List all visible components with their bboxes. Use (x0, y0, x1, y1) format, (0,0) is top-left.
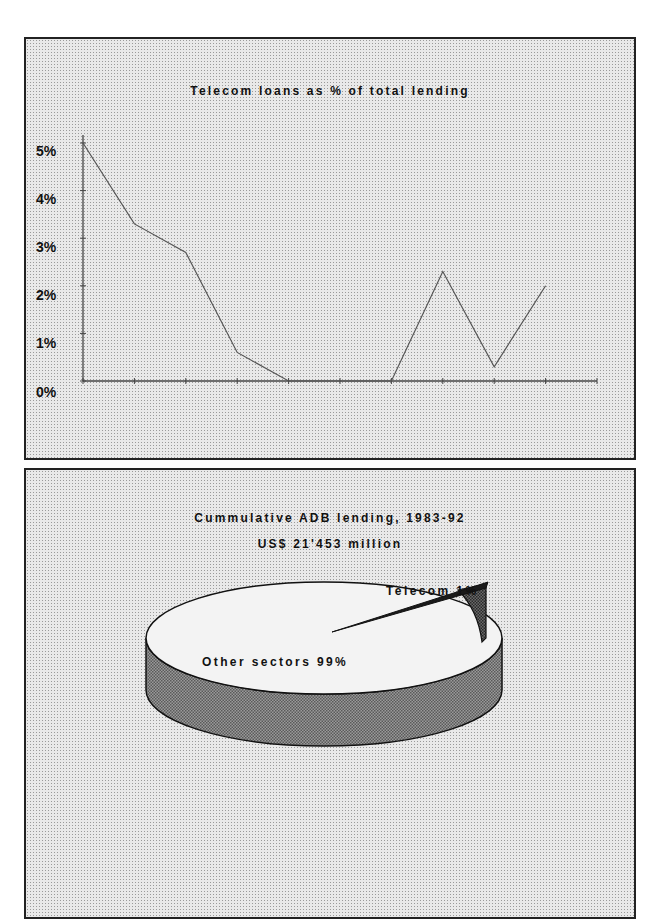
pie-3d (26, 470, 638, 921)
clipped-page-header (150, 0, 510, 7)
pie-label-telecom: Telecom 1% (386, 584, 478, 598)
line-chart-panel: Telecom loans as % of total lending 5% 4… (24, 37, 636, 460)
series-line (83, 143, 546, 381)
axes (80, 135, 597, 384)
pie-label-other-sectors: Other sectors 99% (202, 655, 348, 669)
line-plot-area (26, 39, 638, 462)
pie-chart-panel: Cummulative ADB lending, 1983-92 US$ 21'… (24, 468, 636, 919)
